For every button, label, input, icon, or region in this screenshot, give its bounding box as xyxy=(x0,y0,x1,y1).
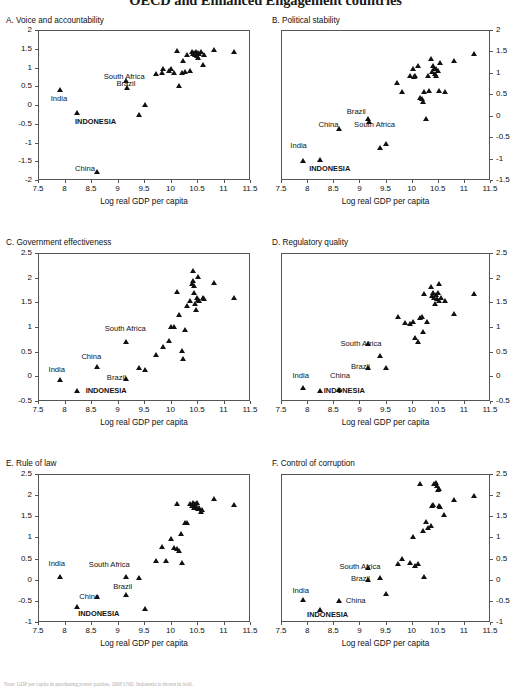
y-tick-label: 2.5 xyxy=(496,470,507,478)
x-tickmark xyxy=(464,622,465,625)
data-point xyxy=(377,575,383,580)
data-point xyxy=(415,561,421,566)
point-label-indonesia: INDONESIA xyxy=(307,611,348,618)
figure-note: Note: GDP per capita in purchasing power… xyxy=(4,681,524,687)
data-point xyxy=(399,556,405,561)
point-label-south-africa: South Africa xyxy=(339,563,380,571)
data-point xyxy=(428,523,434,528)
data-point xyxy=(436,486,442,491)
x-tickmark xyxy=(307,622,308,625)
y-tick-label: -1 xyxy=(496,618,503,626)
x-tickmark xyxy=(281,622,282,625)
y-tick-label: 1.5 xyxy=(496,512,507,520)
point-label-india: India xyxy=(292,587,308,595)
x-tickmark xyxy=(386,622,387,625)
data-point xyxy=(395,561,401,566)
x-tickmark xyxy=(438,622,439,625)
x-tickmark xyxy=(490,622,491,625)
y-tickmark xyxy=(490,516,493,517)
x-tickmark xyxy=(412,622,413,625)
y-tickmark xyxy=(490,537,493,538)
y-tick-label: 0.5 xyxy=(496,555,507,563)
y-tickmark xyxy=(490,559,493,560)
point-label-china: China xyxy=(346,597,366,605)
y-tick-label: 0 xyxy=(496,576,500,584)
data-point xyxy=(300,597,306,602)
x-axis-title-f: Log real GDP per capita xyxy=(281,639,490,648)
plot-area-f: South AfricaBrazilIndiaChinaINDONESIA xyxy=(281,474,490,622)
y-tick-label: 1 xyxy=(496,533,500,541)
y-tickmark xyxy=(490,580,493,581)
data-point xyxy=(471,493,477,498)
y-tickmark xyxy=(490,474,493,475)
y-tick-label: -0.5 xyxy=(496,597,510,605)
data-point xyxy=(451,497,457,502)
x-tickmark xyxy=(359,622,360,625)
panel-title-f: F. Control of corruption xyxy=(272,459,355,468)
y-tickmark xyxy=(490,495,493,496)
data-point xyxy=(417,481,423,486)
data-point xyxy=(336,598,342,603)
y-tick-label: 2 xyxy=(496,491,500,499)
data-point xyxy=(441,512,447,517)
data-point xyxy=(421,574,427,579)
x-tick-label: 11.5 xyxy=(475,627,505,635)
data-point xyxy=(437,504,443,509)
x-tickmark xyxy=(333,622,334,625)
data-point xyxy=(383,591,389,596)
y-tickmark xyxy=(490,601,493,602)
point-label-brazil: Brazil xyxy=(351,575,370,583)
data-point xyxy=(410,534,416,539)
